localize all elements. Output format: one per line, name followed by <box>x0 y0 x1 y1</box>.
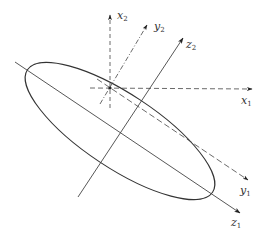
z1-axis <box>15 62 240 213</box>
label-x2: x2 <box>117 9 128 23</box>
x1-axis <box>90 88 252 89</box>
label-x1: x1 <box>241 94 252 108</box>
z2-axis <box>78 38 183 197</box>
ellipse <box>7 39 233 223</box>
y1-axis <box>97 79 248 180</box>
label-y1: y1 <box>239 184 251 198</box>
label-z2: z2 <box>185 38 196 52</box>
y2-axis <box>100 25 147 104</box>
coordinate-frame-diagram: x2 y2 z2 x1 y1 z1 <box>0 0 260 235</box>
label-y2: y2 <box>153 20 165 34</box>
origin-point <box>108 86 111 89</box>
label-z1: z1 <box>230 216 241 230</box>
